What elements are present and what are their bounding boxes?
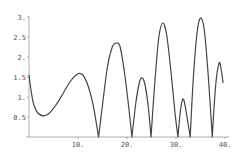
x-ticks: 10.20.30.40.: [72, 137, 232, 149]
y-tick-label: 1.: [18, 94, 26, 102]
axes: [26, 16, 229, 137]
y-tick-label: 3.: [18, 14, 26, 22]
line-chart: 10.20.30.40. 0.51.1.52.2.53.: [0, 0, 238, 156]
y-tick-label: 0.5: [13, 114, 26, 122]
x-tick-label: 10.: [72, 141, 85, 149]
x-tick-label: 30.: [170, 141, 183, 149]
y-ticks: 0.51.1.52.2.53.: [13, 14, 29, 122]
data-curve: [29, 18, 223, 137]
y-tick-label: 2.5: [13, 34, 26, 42]
x-tick-label: 40.: [219, 141, 232, 149]
y-tick-label: 1.5: [13, 74, 26, 82]
x-tick-label: 20.: [121, 141, 134, 149]
y-tick-label: 2.: [18, 54, 26, 62]
